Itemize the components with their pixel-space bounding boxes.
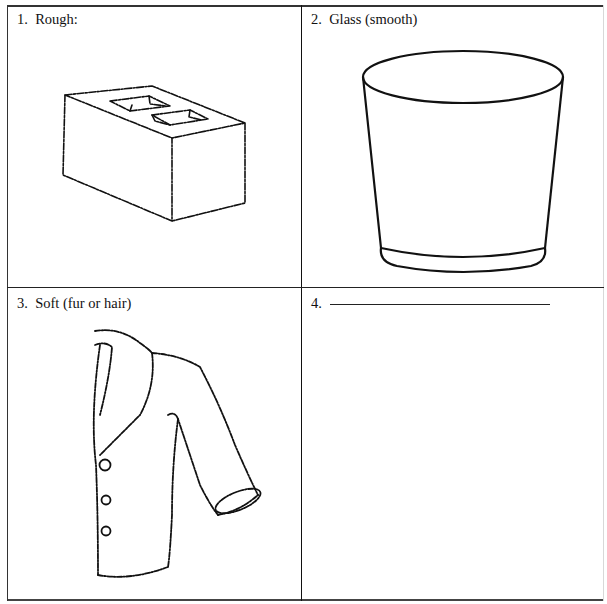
- drinking-glass-icon: [351, 50, 581, 280]
- button-icon: [102, 527, 111, 536]
- fill-in-blank-line[interactable]: [330, 304, 550, 305]
- cell-title: Soft (fur or hair): [35, 295, 131, 311]
- cell-number: 2.: [311, 11, 322, 27]
- cell-label: 4.: [311, 295, 550, 312]
- cell-label: 2. Glass (smooth): [311, 11, 417, 28]
- cell-label: 1. Rough:: [17, 11, 78, 28]
- button-icon: [100, 460, 111, 471]
- cinder-block-icon: [52, 83, 252, 233]
- cell-soft: 3. Soft (fur or hair): [7, 287, 301, 600]
- cell-rough: 1. Rough:: [7, 5, 301, 287]
- cell-blank: 4.: [301, 287, 604, 600]
- texture-worksheet: 1. Rough: 2. Glass: [7, 5, 604, 600]
- cell-number: 1.: [17, 11, 28, 27]
- cell-label: 3. Soft (fur or hair): [17, 295, 131, 312]
- cell-smooth: 2. Glass (smooth): [301, 5, 604, 287]
- fur-jacket-icon: [60, 315, 280, 595]
- cell-title: Glass (smooth): [329, 11, 417, 27]
- cell-title: Rough:: [35, 11, 78, 27]
- cell-number: 4.: [311, 295, 322, 311]
- button-icon: [102, 496, 111, 505]
- cell-number: 3.: [17, 295, 28, 311]
